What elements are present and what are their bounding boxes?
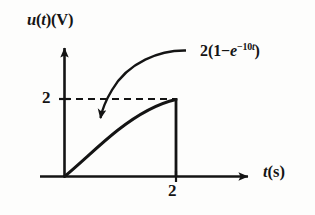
- curve-equation-label: 2(1−e−10t): [200, 42, 260, 59]
- curve-callout-arrow: [101, 50, 187, 118]
- y-axis-tick-label-2: 2: [42, 89, 51, 106]
- waveform-figure: u(t)(V) t(s) 2 2 2(1−e−10t): [0, 0, 315, 215]
- x-axis-label: t(s): [263, 164, 285, 181]
- x-axis-tick-label-2: 2: [168, 182, 177, 199]
- plot-canvas: [0, 0, 315, 215]
- exponential-rise-curve: [65, 100, 177, 177]
- y-axis-label: u(t)(V): [27, 12, 73, 29]
